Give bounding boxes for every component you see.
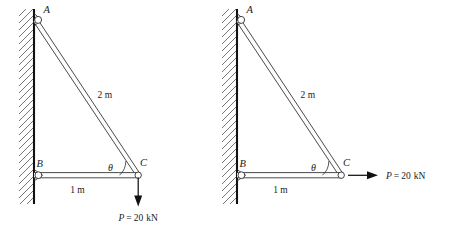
pin-circle-c-left [135,172,141,178]
load-label-left: P=20kN [118,213,158,223]
joint-label-a-left: A [43,4,51,15]
load-unit-left: kN [146,213,158,223]
member-bc-right [237,173,343,178]
pin-circle-a-right [238,16,245,23]
wall-hatching-right [222,9,237,204]
arrow-head-down-left [134,196,142,207]
joint-label-b-right: B [240,158,247,169]
load-arrow-left [134,178,142,207]
dimension-label-bc-left: 1 m [70,185,85,195]
load-symbol-left: P [118,213,125,223]
arrow-head-right [367,171,378,179]
figure-root: A B C 2 m 1 m θ P=20kN [0,0,453,228]
load-unit-right: kN [414,171,426,181]
dimension-label-ac-left: 2 m [98,90,113,100]
pin-circle-a-left [35,16,42,23]
member-bc-left [34,173,140,178]
load-magnitude-left: 20 [134,213,144,223]
joint-b-left [34,170,43,182]
angle-label-left: θ [108,162,113,173]
load-symbol-right: P [385,171,392,181]
angle-label-right: θ [311,162,316,173]
pin-circle-b-left [35,172,42,179]
joint-label-c-right: C [343,157,351,168]
load-equals-left: = [126,213,131,223]
joint-label-c-left: C [140,157,148,168]
load-label-right: P=20kN [385,171,425,181]
diagram-right: A B C 2 m 1 m θ P=20kN [222,4,425,205]
member-ac-left [33,18,139,177]
load-equals-right: = [394,171,399,181]
statics-figure: A B C 2 m 1 m θ P=20kN [0,0,453,228]
diagram-left: A B C 2 m 1 m θ P=20kN [19,4,158,224]
pin-circle-c-right [338,172,344,178]
load-arrow-right [348,171,378,179]
dimension-label-ac-right: 2 m [301,90,316,100]
member-ac-right [236,18,342,177]
pin-circle-b-right [238,172,245,179]
joint-label-b-left: B [37,158,44,169]
wall-hatching-left [19,9,34,204]
joint-b-right [237,170,246,182]
load-magnitude-right: 20 [401,171,411,181]
joint-label-a-right: A [246,4,254,15]
dimension-label-bc-right: 1 m [273,185,288,195]
